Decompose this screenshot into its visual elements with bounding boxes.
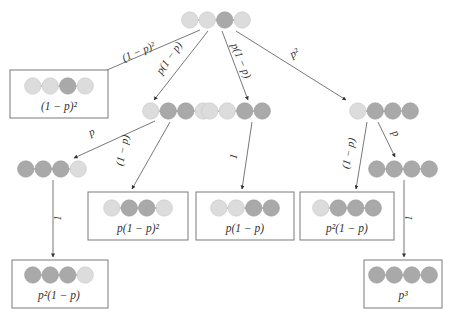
- dark-bead-icon: [404, 267, 420, 283]
- light-bead-icon: [182, 12, 198, 28]
- dark-bead-icon: [402, 103, 418, 119]
- outcome-probability-label: p²(1 − p): [325, 222, 368, 235]
- light-bead-icon: [104, 200, 120, 216]
- leaf-box-leaf3: p(1 − p): [196, 192, 294, 240]
- edge-root-to-nC: p²: [236, 31, 346, 100]
- arrow-line: [242, 122, 252, 189]
- edge-probability-label: p(1 − p): [153, 39, 185, 78]
- edge-nC-to-nCp: p: [378, 122, 403, 157]
- dark-bead-icon: [386, 267, 402, 283]
- leaf-box-leaf5: p²(1 − p): [12, 260, 108, 308]
- light-bead-icon: [234, 12, 250, 28]
- dark-bead-icon: [385, 103, 401, 119]
- light-bead-icon: [313, 200, 329, 216]
- dark-bead-icon: [404, 161, 420, 177]
- arrow-line: [378, 122, 395, 157]
- dark-bead-icon: [369, 161, 385, 177]
- outcome-probability-label: (1 − p)²: [41, 100, 78, 113]
- edge-probability-label: 1: [402, 215, 414, 221]
- arrow-line: [356, 122, 367, 189]
- probability-tree-diagram: (1 − p)²p(1 − p)p(1 − p)p²p(1 − p)1(1 − …: [0, 0, 452, 319]
- dark-bead-icon: [178, 103, 194, 119]
- edge-root-to-leaf1: (1 − p)²: [100, 30, 200, 73]
- state-node-nA: [143, 103, 212, 119]
- edge-probability-label: p: [389, 127, 403, 139]
- light-bead-icon: [156, 200, 172, 216]
- light-bead-icon: [202, 103, 218, 119]
- nodes-layer: (1 − p)²p(1 − p)²p(1 − p)p²(1 − p)p²(1 −…: [10, 12, 442, 308]
- edge-probability-label: (1 − p): [113, 133, 132, 167]
- edge-probability-label: 1: [51, 215, 63, 221]
- light-bead-icon: [228, 200, 244, 216]
- dark-bead-icon: [42, 267, 58, 283]
- leaf-box-leaf6: p³: [364, 260, 442, 308]
- outcome-probability-label: p³: [397, 289, 408, 302]
- light-bead-icon: [219, 103, 235, 119]
- edge-root-to-nB: p(1 − p): [222, 31, 254, 100]
- dark-bead-icon: [237, 103, 253, 119]
- light-bead-icon: [211, 200, 227, 216]
- dark-bead-icon: [160, 103, 176, 119]
- edge-probability-label: (1 − p)²: [120, 39, 158, 65]
- outcome-probability-label: p(1 − p)²: [116, 222, 159, 235]
- light-bead-icon: [42, 78, 58, 94]
- edge-probability-label: p: [85, 125, 96, 139]
- dark-bead-icon: [365, 200, 381, 216]
- light-bead-icon: [77, 78, 93, 94]
- dark-bead-icon: [386, 161, 402, 177]
- dark-bead-icon: [367, 103, 383, 119]
- leaf-box-leaf1: (1 − p)²: [10, 70, 108, 118]
- edge-probability-label: p²: [286, 45, 301, 61]
- edge-probability-label: 1: [227, 153, 240, 161]
- state-node-nC: [350, 103, 419, 119]
- dark-bead-icon: [421, 161, 437, 177]
- dark-bead-icon: [254, 103, 270, 119]
- outcome-probability-label: p²(1 − p): [37, 289, 80, 302]
- dark-bead-icon: [60, 78, 76, 94]
- edge-nB-to-leaf3: 1: [227, 122, 252, 189]
- dark-bead-icon: [263, 200, 279, 216]
- arrow-line: [132, 122, 170, 189]
- state-node-root: [182, 12, 251, 28]
- light-bead-icon: [143, 103, 159, 119]
- edge-probability-label: p(1 − p): [228, 40, 254, 80]
- dark-bead-icon: [35, 161, 51, 177]
- edge-nA-to-leaf2: (1 − p): [113, 122, 170, 189]
- dark-bead-icon: [330, 200, 346, 216]
- dark-bead-icon: [421, 267, 437, 283]
- dark-bead-icon: [217, 12, 233, 28]
- edge-probability-label: (1 − p): [339, 136, 358, 170]
- light-bead-icon: [25, 78, 41, 94]
- dark-bead-icon: [25, 267, 41, 283]
- arrow-line: [236, 31, 346, 100]
- state-node-nB: [202, 103, 271, 119]
- dark-bead-icon: [139, 200, 155, 216]
- dark-bead-icon: [121, 200, 137, 216]
- edge-nCp-to-leaf6: 1: [402, 180, 414, 257]
- leaf-box-leaf4: p²(1 − p): [300, 192, 394, 240]
- dark-bead-icon: [53, 161, 69, 177]
- dark-bead-icon: [60, 267, 76, 283]
- outcome-probability-label: p(1 − p): [225, 222, 265, 235]
- edge-nAp-to-leaf5: 1: [51, 180, 63, 257]
- state-node-nCp: [369, 161, 438, 177]
- diagram-svg: (1 − p)²p(1 − p)p(1 − p)p²p(1 − p)1(1 − …: [0, 0, 452, 319]
- edge-root-to-nA: p(1 − p): [153, 31, 208, 100]
- dark-bead-icon: [369, 267, 385, 283]
- light-bead-icon: [70, 161, 86, 177]
- edge-nC-to-leaf4: (1 − p): [339, 122, 367, 189]
- light-bead-icon: [199, 12, 215, 28]
- dark-bead-icon: [348, 200, 364, 216]
- dark-bead-icon: [18, 161, 34, 177]
- light-bead-icon: [77, 267, 93, 283]
- state-node-nAp: [18, 161, 87, 177]
- light-bead-icon: [350, 103, 366, 119]
- dark-bead-icon: [246, 200, 262, 216]
- leaf-box-leaf2: p(1 − p)²: [88, 192, 188, 240]
